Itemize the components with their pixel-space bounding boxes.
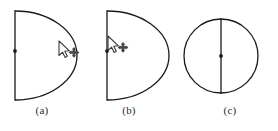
mouse-pointer-move-icon-b[interactable]: [108, 36, 128, 53]
arc-b: [107, 11, 169, 100]
figure-panel-b: (b): [92, 0, 178, 131]
panel-c-drawing: [178, 0, 278, 104]
move-glyph-icon-b: [118, 42, 129, 53]
figure-panel-a: (a): [0, 0, 92, 131]
panel-a-caption: (a): [0, 104, 88, 116]
pointer-arrow-icon-b: [108, 36, 118, 52]
panel-b-drawing: [92, 0, 178, 104]
move-glyph-icon-a: [69, 47, 80, 58]
panel-c-caption: (c): [180, 104, 278, 116]
midpoint-dot-a: [13, 49, 17, 53]
pointer-arrow-icon-a: [59, 41, 69, 57]
panel-a-drawing: [0, 0, 92, 104]
figure-panel-c: (c): [178, 0, 278, 131]
figure-container: (a) (b): [0, 0, 278, 131]
arc-a: [15, 11, 77, 100]
center-dot-c: [219, 54, 223, 58]
panel-b-caption: (b): [86, 104, 172, 116]
